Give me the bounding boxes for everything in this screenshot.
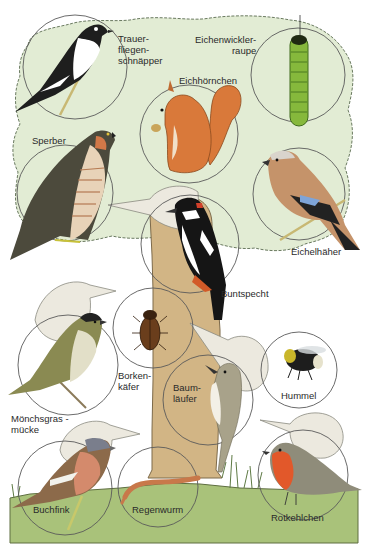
label-eichelhaeher: Eichelhäher	[291, 246, 341, 257]
label-borkenkaefer: Borken- käfer	[118, 370, 151, 392]
label-regenwurm: Regenwurm	[132, 504, 183, 515]
bumblebee-icon	[284, 346, 326, 380]
label-trauerfliegenschnaepper: Trauer- fliegen- schnäpper	[118, 33, 162, 66]
label-eichenwicklerraupe: Eichenwickler- raupe	[195, 34, 256, 56]
label-hummel: Hummel	[281, 390, 316, 401]
label-buntspecht: Buntspecht	[221, 288, 269, 299]
label-rotkehlchen: Rotkehlchen	[271, 512, 324, 523]
label-buchfink: Buchfink	[33, 504, 69, 515]
label-eichhoernchen: Eichhörnchen	[179, 75, 237, 86]
label-sperber: Sperber	[32, 135, 66, 146]
label-baumlaeufer: Baum- läufer	[173, 382, 201, 404]
habitat-illustration: Trauer- fliegen- schnäpper Eichenwickler…	[0, 0, 365, 553]
label-moenchsgrasmuecke: Mönchsgras - mücke	[11, 413, 69, 435]
